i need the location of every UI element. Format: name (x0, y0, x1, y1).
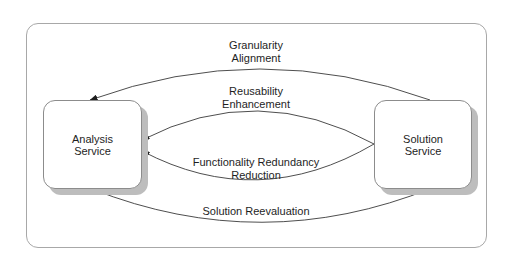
edge-reusability-enhancement (142, 111, 374, 144)
analysis-service-node: Analysis Service (43, 100, 142, 189)
edge-label-line: Functionality Redundancy (193, 156, 320, 169)
edge-label-line: Solution Reevaluation (202, 205, 309, 218)
edge-label-line: Enhancement (222, 98, 290, 111)
solution-service-node: Solution Service (374, 100, 472, 189)
analysis-service-label-line1: Analysis (72, 133, 113, 145)
edge-label-line: Granularity (229, 39, 283, 52)
edge-label-reusability-enhancement: Reusability Enhancement (222, 85, 290, 110)
edge-label-line: Reduction (193, 169, 320, 182)
edge-label-solution-reevaluation: Solution Reevaluation (202, 205, 309, 218)
edge-label-line: Reusability (222, 85, 290, 98)
edge-label-line: Alignment (229, 52, 283, 65)
edge-label-granularity-alignment: Granularity Alignment (229, 39, 283, 64)
analysis-service-label-line2: Service (74, 145, 111, 157)
solution-service-label-line2: Service (405, 145, 442, 157)
solution-service-label-line1: Solution (403, 133, 443, 145)
edge-label-functionality-redundancy-reduction: Functionality Redundancy Reduction (193, 156, 320, 181)
